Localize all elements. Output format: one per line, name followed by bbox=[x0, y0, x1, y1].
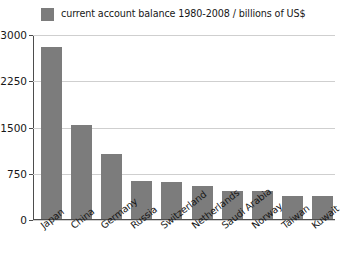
y-axis-tick-label: 0 bbox=[20, 215, 27, 226]
x-axis-labels: JapanChinaGermanyRussiaSwitzerlandNether… bbox=[33, 221, 335, 271]
y-axis-tick-label: 3000 bbox=[0, 30, 27, 41]
y-axis-tick bbox=[29, 174, 33, 175]
bar-chart: current account balance 1980-2008 / bill… bbox=[0, 0, 344, 272]
y-axis-tick bbox=[29, 81, 33, 82]
y-axis-tick-label: 750 bbox=[7, 168, 27, 179]
y-axis-tick-label: 1500 bbox=[0, 122, 27, 133]
plot-area: 0750150022503000 bbox=[33, 35, 335, 220]
legend-swatch-icon bbox=[41, 8, 54, 21]
bar-series bbox=[34, 35, 335, 219]
legend-label: current account balance 1980-2008 / bill… bbox=[61, 8, 306, 20]
y-axis-tick bbox=[29, 35, 33, 36]
y-axis-tick-label: 2250 bbox=[0, 76, 27, 87]
chart-legend: current account balance 1980-2008 / bill… bbox=[41, 7, 306, 21]
y-axis-tick bbox=[29, 128, 33, 129]
bar bbox=[41, 47, 62, 219]
